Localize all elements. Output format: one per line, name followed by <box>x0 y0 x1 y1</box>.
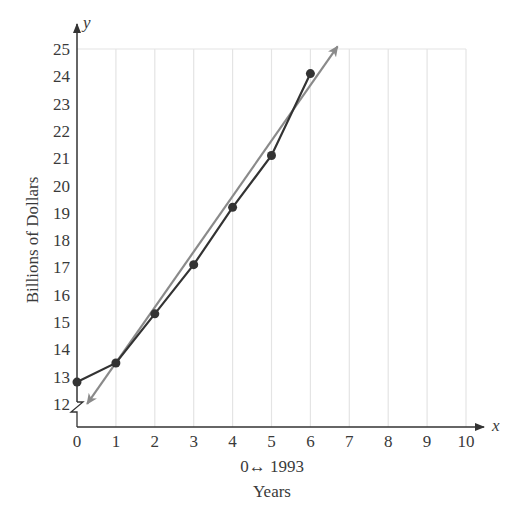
y-tick-label: 13 <box>53 368 70 387</box>
y-tick-label: 18 <box>53 231 70 250</box>
x-axis-note: 0↔ 1993 <box>240 457 304 476</box>
y-tick-label: 12 <box>53 395 70 414</box>
y-tick-label: 22 <box>53 122 70 141</box>
data-point <box>73 378 82 387</box>
data-point <box>111 358 120 367</box>
data-point <box>228 203 237 212</box>
data-point <box>306 69 315 78</box>
x-tick-label: 1 <box>112 432 121 451</box>
data-point <box>189 260 198 269</box>
y-tick-label: 17 <box>53 258 71 277</box>
y-axis-name: y <box>81 13 91 32</box>
x-tick-label: 7 <box>345 432 354 451</box>
chart: 0123456789101213141516171819202122232425… <box>0 0 526 513</box>
x-tick-label: 8 <box>384 432 393 451</box>
x-tick-label: 0 <box>73 432 82 451</box>
y-tick-label: 15 <box>53 313 70 332</box>
data-series <box>73 46 338 404</box>
x-tick-label: 9 <box>423 432 432 451</box>
y-tick-label: 20 <box>53 177 70 196</box>
axis-break-icon <box>71 402 83 427</box>
data-point <box>150 309 159 318</box>
y-tick-label: 23 <box>53 95 70 114</box>
x-tick-label: 5 <box>267 432 276 451</box>
x-tick-label: 6 <box>306 432 315 451</box>
y-tick-label: 25 <box>53 40 70 59</box>
x-tick-label: 2 <box>151 432 160 451</box>
y-axis-label: Billions of Dollars <box>23 177 42 304</box>
y-tick-label: 16 <box>53 286 70 305</box>
x-tick-label: 3 <box>189 432 198 451</box>
x-tick-label: 10 <box>458 432 475 451</box>
y-tick-label: 21 <box>53 149 70 168</box>
x-axis-label: Years <box>253 482 291 501</box>
x-axis-name: x <box>491 416 500 435</box>
data-point <box>267 151 276 160</box>
y-tick-label: 19 <box>53 204 70 223</box>
x-tick-label: 4 <box>228 432 237 451</box>
axes <box>71 24 484 427</box>
y-tick-label: 14 <box>53 340 71 359</box>
y-tick-label: 24 <box>53 67 71 86</box>
grid-lines <box>77 49 466 427</box>
